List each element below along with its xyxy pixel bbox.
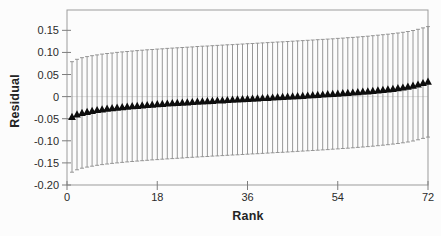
x-tick-label: 72 [422, 191, 434, 203]
y-tick-label: 0.15 [38, 24, 59, 36]
x-axis-title: Rank [232, 209, 263, 223]
y-tick-label: 0 [53, 91, 59, 103]
y-axis-title: Residual [8, 74, 22, 128]
x-tick-label: 18 [151, 191, 163, 203]
y-tick-label: 0.05 [38, 69, 59, 81]
y-tick-label: -0.20 [34, 179, 59, 191]
y-tick-label: 0.10 [38, 46, 59, 58]
x-tick-label: 54 [332, 191, 344, 203]
residual-vs-rank-plot: 0.150.100.050-0.05-0.10-0.15-0.200183654… [0, 0, 441, 236]
y-tick-label: -0.15 [34, 157, 59, 169]
x-tick-label: 36 [241, 191, 253, 203]
x-tick-label: 0 [64, 191, 70, 203]
y-tick-label: -0.05 [34, 113, 59, 125]
chart-figure: 0.150.100.050-0.05-0.10-0.15-0.200183654… [0, 0, 441, 236]
data-point-markers [68, 78, 432, 120]
y-tick-label: -0.10 [34, 135, 59, 147]
